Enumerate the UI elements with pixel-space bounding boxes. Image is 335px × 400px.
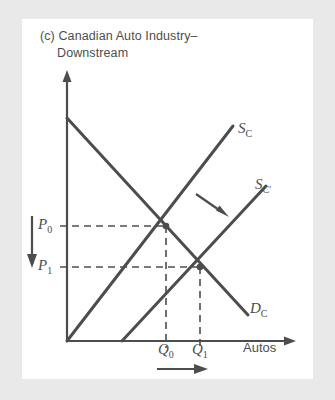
supply-original-label: SC (238, 120, 252, 139)
quantity1-label: Q1 (192, 341, 208, 360)
supply-demand-chart (0, 0, 335, 400)
x-axis-label: Autos (243, 340, 276, 355)
page-background: (c) Canadian Auto Industry– Downstream (0, 0, 335, 400)
quantity-increase-arrow (157, 364, 208, 374)
price-decrease-arrow (27, 216, 37, 268)
equilibrium-point-new (197, 264, 204, 271)
equilibrium-point-initial (163, 223, 170, 230)
price1-label: P1 (38, 257, 52, 276)
demand-curve (67, 118, 248, 315)
quantity0-label: Q0 (158, 341, 174, 360)
y-axis (63, 70, 72, 341)
supply-curve-shifted (122, 186, 266, 341)
price0-label: P0 (38, 216, 52, 235)
demand-label: DC (250, 300, 268, 319)
supply-shifted-label: SC' (255, 176, 271, 195)
supply-shift-arrow (196, 194, 229, 217)
